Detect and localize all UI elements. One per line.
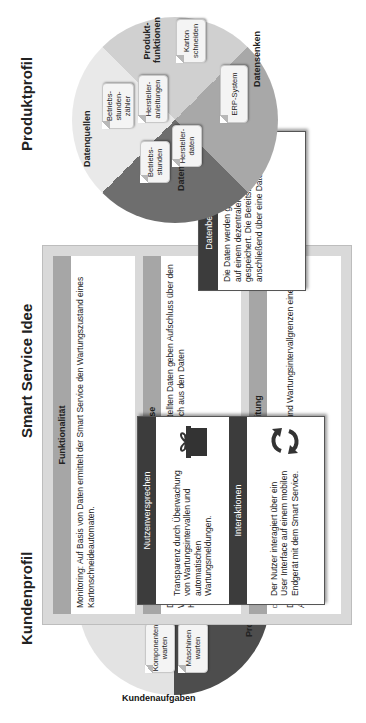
- value-proposition-canvas: Kundenprofil Smart Service Idee Produktp…: [0, 0, 366, 723]
- note-komponenten-warten: Komponenten warten: [145, 623, 175, 673]
- nutzenversprechen-header: Nutzenversprechen: [138, 417, 156, 604]
- segment-label-datenquellen: Datenquellen: [82, 110, 92, 167]
- note-karton-schneiden: Karton schneiden: [176, 19, 206, 63]
- note-herstelleranleitungen: Hersteller-anleitungen: [138, 75, 168, 123]
- interaktionen-header: Interaktionen: [229, 417, 247, 604]
- nutzenversprechen-body: Transparenz durch Überwachung von Wartun…: [156, 417, 229, 604]
- funktionalitaet-card: Funktionalität Monitoring: Auf Basis von…: [53, 256, 135, 614]
- segment-label-daten: Daten: [176, 166, 186, 191]
- funktionalitaet-text: Monitoring: Auf Basis von Daten ermittel…: [71, 256, 100, 614]
- nutzenversprechen-text: Transparenz durch Überwachung von Wartun…: [168, 459, 218, 604]
- refresh-cycle-icon: [267, 423, 303, 459]
- interaktionen-text: Der Nutzer interagiert über ein User Int…: [265, 459, 305, 604]
- segment-label-produktfunktionen: Produkt-funktionen: [142, 19, 162, 63]
- note-betriebsstunden: Betriebs-stunden: [140, 141, 170, 183]
- interaktionen-body: Der Nutzer interagiert über ein User Int…: [247, 417, 322, 604]
- note-herstellerdaten: Hersteller-daten: [172, 125, 202, 167]
- segment-label-datensenken: Datensenken: [252, 31, 262, 87]
- gift-icon: [178, 425, 208, 459]
- kundenprofil-title: Kundenprofil: [18, 552, 35, 645]
- note-maschinen-warten: Maschinen warten: [178, 623, 208, 673]
- smart-service-idee-title: Smart Service Idee: [18, 304, 35, 438]
- produktprofil-title: Produktprofil: [18, 57, 35, 151]
- note-betriebsstundenzaehler: Betriebs-stunden-zähler: [102, 83, 134, 129]
- nutzenversprechen-stack: Nutzenversprechen Transparenz durch Über…: [137, 416, 325, 605]
- funktionalitaet-header: Funktionalität: [53, 256, 71, 614]
- note-erp-system: ERP-System: [220, 65, 248, 123]
- segment-label-kundenaufgaben: Kundenaufgaben: [122, 693, 196, 703]
